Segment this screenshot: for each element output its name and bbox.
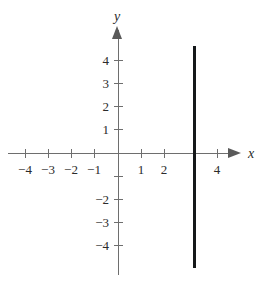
graph-figure: −4 −3 −2 −1 1 2 4 4 3 2 1 −2 −3 −4 x y bbox=[0, 0, 270, 284]
x-tick--3 bbox=[48, 149, 49, 158]
x-tick--2 bbox=[71, 149, 72, 158]
y-tick-label-3: 3 bbox=[83, 77, 109, 90]
x-axis-label: x bbox=[248, 147, 254, 161]
y-tick--3 bbox=[114, 222, 123, 223]
y-axis-label: y bbox=[114, 10, 120, 24]
y-tick-4 bbox=[114, 60, 123, 61]
y-tick-label-4: 4 bbox=[83, 54, 109, 67]
x-axis-arrowhead bbox=[228, 148, 241, 158]
y-tick-label--3: −3 bbox=[83, 216, 109, 229]
x-tick-4 bbox=[217, 149, 218, 158]
y-tick-3 bbox=[114, 83, 123, 84]
x-tick-label-4: 4 bbox=[204, 163, 230, 176]
x-tick-2 bbox=[164, 149, 165, 158]
vertical-line-x-equals-3 bbox=[193, 46, 196, 268]
y-tick-label--2: −2 bbox=[83, 193, 109, 206]
x-tick-1 bbox=[141, 149, 142, 158]
y-tick-label-2: 2 bbox=[83, 100, 109, 113]
y-tick-label-1: 1 bbox=[83, 123, 109, 136]
y-axis-line bbox=[118, 30, 119, 275]
x-tick--4 bbox=[25, 149, 26, 158]
y-tick--2 bbox=[114, 199, 123, 200]
x-tick--1 bbox=[94, 149, 95, 158]
y-tick--4 bbox=[114, 245, 123, 246]
y-tick-label--4: −4 bbox=[83, 239, 109, 252]
x-tick-label-2: 2 bbox=[151, 163, 177, 176]
y-tick-2 bbox=[114, 106, 123, 107]
y-tick--1 bbox=[114, 176, 123, 177]
x-tick-label--1: −1 bbox=[81, 163, 107, 176]
y-tick-1 bbox=[114, 129, 123, 130]
y-axis-arrowhead bbox=[112, 26, 122, 39]
x-axis-line bbox=[8, 153, 230, 154]
